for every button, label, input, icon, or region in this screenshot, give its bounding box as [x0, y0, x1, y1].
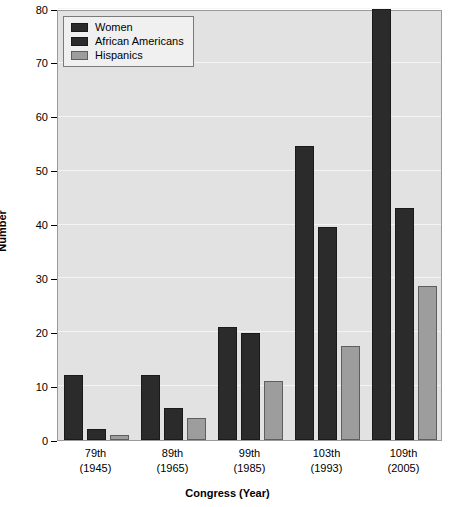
bar — [87, 429, 106, 440]
bar — [372, 9, 391, 440]
bar — [264, 381, 283, 440]
legend-label: African Americans — [95, 36, 184, 47]
y-axis-tick-label: 50 — [36, 166, 48, 177]
bar — [395, 208, 414, 440]
plot-area — [57, 10, 442, 441]
chart-legend: WomenAfrican AmericansHispanics — [63, 16, 194, 67]
y-axis-tick-label: 40 — [36, 220, 48, 231]
y-axis-title: Number — [0, 210, 8, 252]
y-axis-tick-label: 10 — [36, 382, 48, 393]
bar-group — [289, 11, 366, 440]
bar-group — [212, 11, 289, 440]
legend-item: African Americans — [71, 36, 184, 47]
bar-chart-figure: 01020304050607080 Number WomenAfrican Am… — [0, 0, 455, 507]
bar — [295, 146, 314, 440]
legend-item: Hispanics — [71, 50, 184, 61]
bar — [187, 418, 206, 440]
y-axis: 01020304050607080 — [0, 0, 57, 451]
bar-group — [135, 11, 212, 440]
bar-group — [366, 11, 443, 440]
y-axis-tick-label: 20 — [36, 328, 48, 339]
legend-item: Women — [71, 22, 184, 33]
x-axis-title: Congress (Year) — [0, 487, 455, 499]
bar-group — [58, 11, 135, 440]
bar — [110, 435, 129, 440]
y-axis-tick-label: 80 — [36, 5, 48, 16]
bar — [164, 408, 183, 440]
bar — [218, 327, 237, 440]
bar — [141, 375, 160, 440]
legend-swatch — [71, 37, 88, 46]
legend-swatch — [71, 51, 88, 60]
bar — [241, 333, 260, 440]
y-axis-tick-label: 30 — [36, 274, 48, 285]
bar — [341, 346, 360, 440]
legend-label: Women — [95, 22, 133, 33]
x-axis-tick-label: 109th(2005) — [359, 446, 449, 476]
bar — [418, 286, 437, 440]
bar — [64, 375, 83, 440]
y-axis-tick-label: 0 — [42, 436, 48, 447]
y-axis-tick-label: 70 — [36, 58, 48, 69]
legend-label: Hispanics — [95, 50, 143, 61]
legend-swatch — [71, 23, 88, 32]
bar — [318, 227, 337, 440]
y-axis-tick-label: 60 — [36, 112, 48, 123]
